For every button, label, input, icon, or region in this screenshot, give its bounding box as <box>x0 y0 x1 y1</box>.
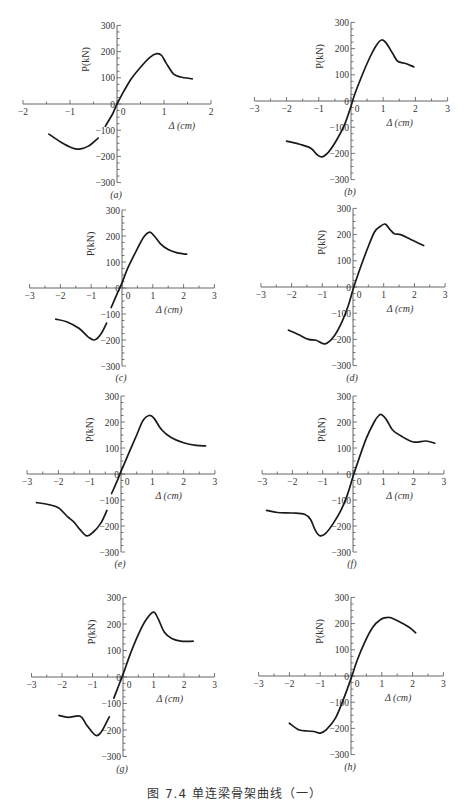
y-tick-label: 300 <box>105 392 120 402</box>
x-tick-label: 2 <box>181 477 186 487</box>
x-tick-label: 0 <box>355 104 360 114</box>
x-tick-label: 3 <box>213 477 218 487</box>
y-tick-label: 300 <box>337 392 352 402</box>
x-tick-label: 3 <box>445 104 450 114</box>
y-tick-label: 100 <box>335 645 350 655</box>
y-tick-label: 100 <box>105 444 120 454</box>
y-tick-label: 300 <box>335 593 350 603</box>
y-axis-label: P(kN) <box>314 44 326 68</box>
y-tick-label: 0 <box>344 672 349 682</box>
skeleton-curve <box>287 40 414 157</box>
panel-label: (f) <box>347 558 357 570</box>
chart-panel-h: −3−2−101233002001000−100−200−300Δ (cm)P(… <box>254 593 446 773</box>
panel-label: (c) <box>115 372 127 384</box>
chart-panel-e: −3−2−101233002001000−100−200−300Δ (cm)P(… <box>22 392 217 571</box>
x-tick-label: −3 <box>256 290 266 300</box>
y-tick-label: −300 <box>100 362 120 372</box>
y-tick-label: 200 <box>101 47 116 57</box>
x-tick-label: 2 <box>182 680 187 690</box>
x-tick-label: −3 <box>257 477 267 487</box>
chart-panel-a: −2−10123002001000−100−200−300Δ (cm)P(kN)… <box>18 21 214 201</box>
y-tick-label: 0 <box>344 97 349 107</box>
x-axis-label: Δ (cm) <box>154 490 182 502</box>
x-tick-label: 2 <box>410 679 415 689</box>
x-tick-label: −2 <box>57 680 67 690</box>
x-tick-label: 0 <box>357 477 362 487</box>
x-tick-label: 2 <box>413 104 418 114</box>
y-tick-label: 200 <box>107 620 122 630</box>
y-tick-label: 300 <box>335 18 350 28</box>
x-tick-label: 0 <box>121 107 126 117</box>
y-tick-label: 200 <box>335 44 350 54</box>
x-tick-label: −2 <box>284 679 294 689</box>
x-axis-label: Δ (cm) <box>168 120 196 132</box>
x-tick-label: −3 <box>26 680 36 690</box>
x-tick-label: 3 <box>212 680 217 690</box>
x-tick-label: 0 <box>126 291 131 301</box>
y-axis-label: P(kN) <box>84 418 96 442</box>
panel-label: (h) <box>344 761 356 773</box>
x-tick-label: −2 <box>287 290 297 300</box>
y-tick-label: 300 <box>107 593 122 603</box>
y-tick-label: −200 <box>99 522 119 532</box>
y-axis-label: P(kN) <box>316 230 328 254</box>
x-tick-label: 1 <box>150 291 155 301</box>
y-tick-label: −100 <box>100 310 120 320</box>
x-tick-label: 1 <box>381 477 386 487</box>
y-tick-label: 200 <box>335 619 350 629</box>
figure-caption: 图 7.4 单连梁骨架曲线（一） <box>0 784 469 801</box>
y-tick-label: 100 <box>106 258 121 268</box>
y-tick-label: 0 <box>346 283 351 293</box>
y-tick-label: −200 <box>95 152 115 162</box>
y-tick-label: −100 <box>95 126 115 136</box>
skeleton-curve <box>289 617 415 733</box>
y-tick-label: −100 <box>99 496 119 506</box>
y-tick-label: −100 <box>331 496 351 506</box>
x-tick-label: −2 <box>18 107 28 117</box>
x-tick-label: −1 <box>65 107 75 117</box>
y-axis-label: P(kN) <box>314 619 326 643</box>
x-tick-label: 0 <box>355 679 360 689</box>
y-tick-label: 200 <box>337 418 352 428</box>
y-axis-label: P(kN) <box>85 232 97 256</box>
y-tick-label: 0 <box>346 470 351 480</box>
panel-label: (d) <box>346 372 358 384</box>
x-tick-label: −1 <box>317 290 327 300</box>
y-axis-label: P(kN) <box>316 418 328 442</box>
x-tick-label: −3 <box>22 477 32 487</box>
x-tick-label: 0 <box>127 680 132 690</box>
panel-label: (e) <box>114 558 126 570</box>
y-axis-label: P(kN) <box>80 47 92 71</box>
y-tick-label: −300 <box>329 175 349 185</box>
x-axis-label: Δ (cm) <box>385 490 413 502</box>
x-tick-label: 1 <box>379 679 384 689</box>
x-tick-label: −1 <box>315 679 325 689</box>
y-tick-label: −200 <box>329 149 349 159</box>
y-tick-label: −200 <box>100 336 120 346</box>
x-tick-label: −2 <box>53 477 63 487</box>
y-tick-label: −300 <box>331 548 351 558</box>
y-tick-label: −300 <box>329 750 349 760</box>
chart-panel-d: −3−2−101233002001000−100−200−300Δ (cm)P(… <box>256 204 448 384</box>
chart-panel-g: −3−2−101233002001000−100−200−300Δ (cm)P(… <box>26 593 217 775</box>
x-tick-label: −1 <box>318 477 328 487</box>
x-tick-label: 3 <box>441 679 446 689</box>
x-tick-label: 1 <box>150 477 155 487</box>
y-tick-label: −300 <box>95 178 115 188</box>
y-tick-label: 200 <box>106 232 121 242</box>
x-tick-label: 0 <box>357 290 362 300</box>
x-tick-label: −3 <box>25 291 35 301</box>
x-tick-label: 2 <box>209 107 214 117</box>
chart-panel-b: −3−2−101233002001000−100−200−300Δ (cm)P(… <box>249 18 450 198</box>
x-tick-label: 1 <box>381 104 386 114</box>
x-tick-label: −1 <box>85 477 95 487</box>
y-tick-label: −300 <box>101 752 121 762</box>
y-tick-label: 100 <box>101 73 116 83</box>
x-tick-label: 3 <box>443 290 448 300</box>
x-tick-label: −1 <box>86 291 96 301</box>
y-tick-label: 200 <box>337 230 352 240</box>
x-tick-label: −1 <box>314 104 324 114</box>
y-tick-label: −100 <box>101 699 121 709</box>
x-tick-label: 2 <box>181 291 186 301</box>
